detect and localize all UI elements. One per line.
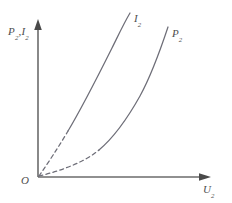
curve-label-p2-subscript: 2 [179,36,182,43]
y-axis-arrowhead [34,19,42,30]
y-axis-label-p-subscript: 2 [15,34,19,41]
curve-label-p2: P2 [172,28,182,42]
curve-i2-solid-segment [68,13,130,131]
curve-label-i2: I2 [134,13,141,27]
origin-label: O [21,175,29,186]
curve-p2-solid-segment [99,27,168,150]
x-axis-arrowhead [199,173,211,180]
curve-label-p2-main: P [172,27,179,39]
plot-svg [0,0,232,203]
figure-canvas: P2,I2 U2 O I2 P2 [0,0,232,203]
curve-label-i2-subscript: 2 [138,21,141,28]
x-axis-label-u: U [203,183,211,195]
y-axis-label-i-subscript: 2 [25,34,29,41]
x-axis-label-subscript: 2 [211,192,214,199]
y-axis-label-p: P [8,25,15,37]
y-axis-label: P2,I2 [8,26,29,40]
x-axis-label: U2 [203,184,214,198]
